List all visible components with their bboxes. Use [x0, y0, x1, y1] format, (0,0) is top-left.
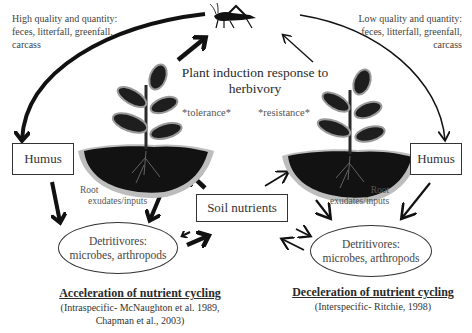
soil-nutrients-box: Soil nutrients [196, 194, 288, 222]
right-note-line: Low quality and quantity: [358, 12, 462, 25]
right-note-line: feces, litterfall, greenfall, [358, 25, 462, 38]
center-title-line: herbivory [175, 81, 335, 97]
arrow-soil-to-detritivores-left [182, 232, 190, 236]
center-title-line: Plant induction response to [175, 65, 335, 81]
detritivores-ellipse-left: Detritivores: microbes, arthropods [58, 222, 178, 274]
detritivores-right-line: Detritivores: [342, 237, 400, 251]
root-exudates-right: Root exudates/inputs [330, 185, 389, 207]
left-input-note: High quality and quantity: feces, litter… [12, 12, 117, 51]
right-caption: Deceleration of nutrient cycling (Inters… [278, 285, 468, 313]
root-right-line: Root [330, 185, 389, 196]
arrow-root-right-to-detritivores [316, 200, 330, 218]
root-left-line: exudates/inputs [80, 196, 147, 207]
acceleration-heading: Acceleration of nutrient cycling [40, 286, 240, 301]
arrow-humus-right-to-detritivores [402, 183, 430, 218]
root-right-line: exudates/inputs [330, 196, 389, 207]
arrow-humus-left-to-detritivores [52, 182, 60, 222]
detritivores-left-line: Detritivores: [89, 234, 147, 248]
acceleration-citation: Chapman et al., 2003) [40, 314, 240, 327]
left-caption: Acceleration of nutrient cycling (Intras… [40, 286, 240, 327]
humus-box-right: Humus [410, 143, 462, 175]
humus-box-left: Humus [12, 143, 74, 175]
right-input-note: Low quality and quantity: feces, litterf… [358, 12, 462, 51]
deceleration-heading: Deceleration of nutrient cycling [278, 285, 468, 300]
deceleration-citation: (Interspecific- Ritchie, 1998) [278, 300, 468, 313]
right-note-line: carcass [358, 38, 462, 51]
arrow-root-left-to-detritivores [150, 196, 160, 220]
resistance-label: *resistance* [258, 107, 310, 118]
left-note-line: carcass [12, 38, 117, 51]
arrow-plant-right-to-herbivore [283, 35, 313, 62]
acceleration-citation: (Intraspecific- McNaughton et al. 1989, [40, 301, 240, 314]
arrow-soil-to-plant-right [265, 172, 288, 186]
arrow-detritivores-left-to-soil [187, 236, 208, 245]
root-exudates-left: Root exudates/inputs [80, 185, 147, 207]
grasshopper-icon [210, 3, 256, 28]
tolerance-label: *tolerance* [182, 107, 231, 118]
left-note-line: High quality and quantity: [12, 12, 117, 25]
left-note-line: feces, litterfall, greenfall, [12, 25, 117, 38]
center-title: Plant induction response to herbivory [175, 65, 335, 97]
arrow-detritivores-right-to-soil [282, 239, 304, 250]
detritivores-ellipse-right: Detritivores: microbes, arthropods [310, 225, 432, 277]
arrow-plant-left-to-herbivore [178, 38, 205, 60]
detritivores-right-line: microbes, arthropods [322, 251, 419, 265]
root-left-line: Root [80, 185, 147, 196]
detritivores-left-line: microbes, arthropods [69, 248, 166, 262]
arrow-soil-to-detritivores-right [296, 229, 310, 236]
